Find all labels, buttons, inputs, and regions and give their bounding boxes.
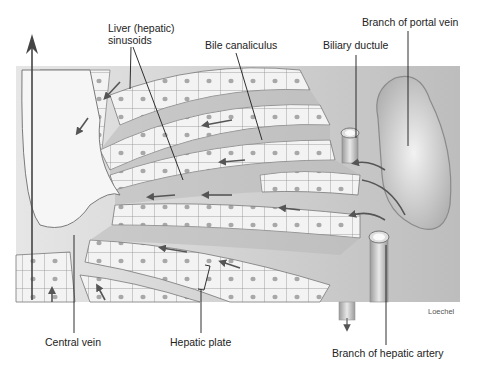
label-hepatic-plate: Hepatic plate xyxy=(170,336,231,348)
label-central-vein: Central vein xyxy=(45,336,101,348)
label-hepatic-sinusoids-line2: sinusoids xyxy=(108,34,175,46)
label-portal-vein: Branch of portal vein xyxy=(362,16,458,28)
label-hepatic-sinusoids: Liver (hepatic) sinusoids xyxy=(108,22,175,46)
label-bile-canaliculus: Bile canaliculus xyxy=(205,39,277,51)
artist-credit: Loechel xyxy=(428,307,454,316)
label-biliary-ductule: Biliary ductule xyxy=(323,39,388,51)
label-hepatic-artery: Branch of hepatic artery xyxy=(332,347,443,359)
liver-lobule-figure: Liver (hepatic) sinusoids Bile canalicul… xyxy=(0,0,477,374)
bile-outflow xyxy=(339,302,355,328)
illustration xyxy=(0,0,477,374)
label-hepatic-sinusoids-line1: Liver (hepatic) xyxy=(108,22,175,34)
